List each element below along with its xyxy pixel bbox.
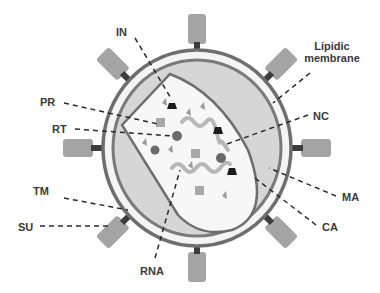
label-nc: NC	[313, 110, 329, 122]
label-ca: CA	[322, 221, 338, 233]
label-lipidic-line2: membrane	[304, 52, 360, 64]
label-in: IN	[116, 26, 127, 38]
label-lipidic-line1: Lipidic	[304, 40, 360, 52]
label-rna: RNA	[140, 265, 164, 277]
label-su: SU	[18, 221, 33, 233]
label-pr: PR	[40, 96, 55, 108]
virus-diagram: IN PR RT TM SU RNA Lipidic membrane NC M…	[0, 0, 380, 293]
label-ma: MA	[342, 191, 359, 203]
label-lipidic-membrane: Lipidic membrane	[304, 40, 360, 64]
label-rt: RT	[52, 123, 67, 135]
label-tm: TM	[33, 185, 49, 197]
